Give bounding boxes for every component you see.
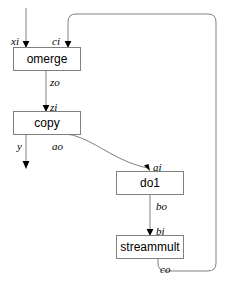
port-label-zi: zi <box>49 101 57 113</box>
diagram-canvas: omerge copy do1 streammult xi ci zo zi y… <box>0 0 226 281</box>
port-label-co: co <box>160 263 171 275</box>
port-label-y: y <box>16 140 22 152</box>
node-do1-label: do1 <box>140 176 160 190</box>
port-label-bi: bi <box>156 225 165 237</box>
edge-bo-bi <box>147 194 154 236</box>
node-do1[interactable]: do1 <box>117 172 184 195</box>
node-copy[interactable]: copy <box>14 112 81 135</box>
node-streammult[interactable]: streammult <box>117 236 184 259</box>
port-label-ao: ao <box>52 140 64 152</box>
dataflow-diagram: omerge copy do1 streammult xi ci zo zi y… <box>0 0 226 281</box>
port-label-ai: ai <box>153 161 162 173</box>
node-omerge-label: omerge <box>27 52 68 66</box>
port-label-bo: bo <box>156 200 168 212</box>
edge-y-output <box>23 134 30 169</box>
edge-zo-zi <box>43 70 50 112</box>
edge-feedback-loop <box>65 14 216 271</box>
node-streammult-label: streammult <box>120 240 180 254</box>
port-label-ci: ci <box>52 35 60 47</box>
port-label-xi: xi <box>10 35 19 47</box>
edge-ao-ai <box>66 134 150 171</box>
edge-xi-input <box>23 8 30 48</box>
port-label-zo: zo <box>49 76 60 88</box>
node-omerge[interactable]: omerge <box>14 48 81 71</box>
node-copy-label: copy <box>34 116 59 130</box>
